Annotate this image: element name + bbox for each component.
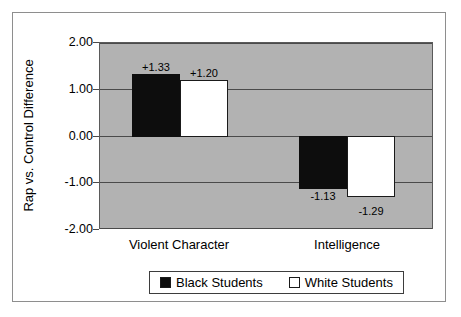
y-tick-label-neg1: -1.00 (65, 176, 94, 189)
bar-value-intelligence-white: -1.29 (347, 206, 395, 217)
bar-violent-character-black[interactable] (132, 74, 180, 137)
x-category-label-violent-character: Violent Character (111, 235, 247, 255)
bar-value-intelligence-black: -1.13 (299, 191, 347, 202)
legend-label-white-students: White Students (305, 276, 393, 289)
gridline-2 (100, 43, 432, 44)
chart-legend: Black Students White Students (149, 271, 404, 294)
y-tick-mark-neg2 (93, 229, 99, 230)
bar-intelligence-white[interactable] (347, 136, 395, 197)
y-tick-label-0: 0.00 (69, 130, 93, 143)
y-tick-label-2: 2.00 (69, 36, 93, 49)
bar-violent-character-white[interactable] (180, 80, 228, 137)
x-category-label-intelligence: Intelligence (279, 235, 415, 255)
y-axis-tick-labels: 2.00 1.00 0.00 -1.00 -2.00 (13, 42, 93, 229)
legend-item-black-students[interactable]: Black Students (160, 276, 263, 289)
bar-chart: Rap vs. Control Difference 2.00 1.00 0.0… (13, 13, 447, 303)
y-tick-label-neg2: -2.00 (65, 223, 94, 236)
filled-square-icon (160, 277, 171, 288)
bar-intelligence-black[interactable] (299, 136, 347, 189)
figure-frame: Rap vs. Control Difference 2.00 1.00 0.0… (12, 12, 446, 302)
bar-value-violent-character-white: +1.20 (180, 68, 228, 79)
legend-label-black-students: Black Students (176, 276, 263, 289)
bar-value-violent-character-black: +1.33 (132, 62, 180, 73)
x-axis-category-labels: Violent Character Intelligence (99, 235, 433, 255)
legend-item-white-students[interactable]: White Students (289, 276, 393, 289)
y-tick-label-1: 1.00 (69, 83, 93, 96)
gridline-neg2 (100, 228, 432, 229)
plot-area: +1.33 +1.20 -1.13 -1.29 (99, 42, 433, 229)
open-square-icon (289, 277, 300, 288)
